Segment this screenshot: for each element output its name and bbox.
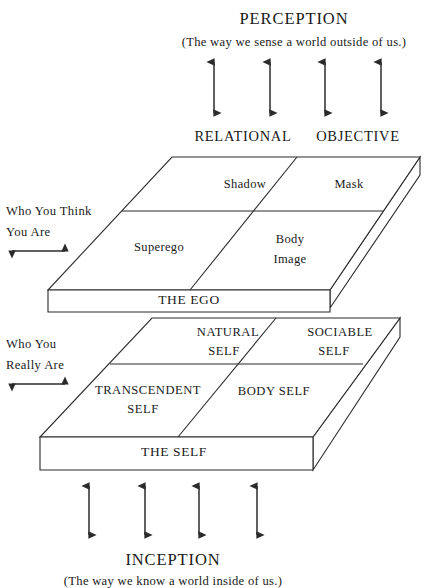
psyche-model-diagram: PERCEPTION (The way we sense a world out… [0,0,427,588]
side-label-think-line2: You Are [6,225,51,239]
perception-subtitle: (The way we sense a world outside of us.… [182,35,407,49]
ego-base-label: THE EGO [158,292,220,307]
column-header-objective: OBJECTIVE [316,128,400,144]
quadrant-body-image-line2: Image [274,252,307,266]
quadrant-transcendent-self-line1: TRANSCENDENT [95,383,201,397]
inception-title: INCEPTION [125,550,220,569]
column-header-relational: RELATIONAL [194,128,291,144]
side-label-really-line1: Who You [6,337,57,351]
inception-arrow-group [89,486,257,535]
quadrant-sociable-self-line2: SELF [318,344,349,358]
perception-arrow-group [214,62,381,113]
perception-title: PERCEPTION [240,9,349,28]
diagram-canvas: PERCEPTION (The way we sense a world out… [0,0,427,588]
quadrant-transcendent-self-line2: SELF [127,402,158,416]
quadrant-body-self-label: BODY SELF [238,384,310,398]
quadrant-shadow-label: Shadow [224,177,266,191]
quadrant-natural-self-line1: NATURAL [197,325,259,339]
self-base-label: THE SELF [141,444,207,459]
quadrant-superego-label: Superego [134,240,184,254]
quadrant-body-image-line1: Body [276,232,305,246]
inception-subtitle: (The way we know a world inside of us.) [64,574,282,588]
side-label-think-line1: Who You Think [6,204,92,218]
quadrant-sociable-self-line1: SOCIABLE [307,325,373,339]
quadrant-mask-label: Mask [334,177,364,191]
quadrant-natural-self-line2: SELF [208,344,239,358]
side-label-really-line2: Really Are [6,358,64,372]
